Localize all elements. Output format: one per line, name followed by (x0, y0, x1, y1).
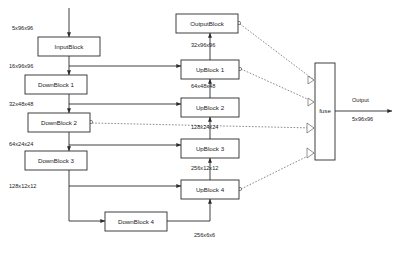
tensor-label-enc-16: 16x96x96 (9, 63, 33, 69)
up-block-2-label: UpBlock 2 (196, 104, 225, 111)
block-down-block-3[interactable]: DownBlock 3 (25, 151, 87, 170)
block-down-block-1[interactable]: DownBlock 1 (25, 75, 87, 94)
output-dim-label: 5x96x96 (352, 116, 373, 122)
tensor-label-bottleneck: 256x6x6 (194, 232, 215, 238)
tensor-label-enc-64: 64x24x24 (9, 141, 33, 147)
up-block-1-label: UpBlock 1 (196, 66, 225, 73)
block-up-block-2[interactable]: UpBlock 2 (181, 98, 239, 117)
fuse-input-arrowheads (307, 76, 314, 158)
block-up-block-1[interactable]: UpBlock 1 (181, 60, 239, 79)
block-down-block-2[interactable]: DownBlock 2 (28, 113, 90, 132)
bottleneck-edges (167, 199, 210, 221)
block-input-block[interactable]: InputBlock (38, 37, 100, 56)
tensor-label-enc-128: 128x12x12 (9, 183, 36, 189)
up-block-3-label: UpBlock 3 (196, 145, 225, 152)
block-fuse[interactable]: fuse (315, 63, 335, 160)
tensor-label-dec-64: 64x48x48 (191, 83, 215, 89)
edge-down3-to-down4 (69, 170, 105, 221)
architecture-diagram-canvas: InputBlock DownBlock 1 DownBlock 2 DownB… (0, 0, 407, 253)
down-block-3-label: DownBlock 3 (38, 157, 75, 164)
block-output-block[interactable]: OutputBlock (176, 14, 238, 33)
dashed-output-to-fuse (240, 24, 314, 80)
down-block-4-label: DownBlock 4 (118, 218, 155, 225)
block-down-block-4[interactable]: DownBlock 4 (105, 212, 167, 231)
fuse-arrowhead-1 (308, 76, 314, 84)
tensor-label-dec-128: 128x24x24 (191, 124, 218, 130)
diagram-svg: InputBlock DownBlock 1 DownBlock 2 DownB… (0, 0, 407, 253)
down-block-1-label: DownBlock 1 (38, 81, 75, 88)
dashed-up1-to-fuse (241, 69, 314, 102)
fuse-arrowhead-2 (308, 98, 314, 106)
block-up-block-3[interactable]: UpBlock 3 (181, 139, 239, 158)
tensor-label-enc-32: 32x48x48 (9, 101, 33, 107)
block-up-block-4[interactable]: UpBlock 4 (181, 180, 239, 199)
down-block-2-label: DownBlock 2 (41, 119, 78, 126)
edge-down4-to-up4 (167, 199, 210, 221)
tensor-label-dec-256: 256x12x12 (191, 165, 218, 171)
fuse-arrowhead-4 (307, 148, 314, 158)
tensor-label-dec-32: 32x96x96 (191, 42, 215, 48)
input-block-label: InputBlock (55, 43, 85, 50)
dashed-up4-to-fuse (241, 153, 314, 189)
output-block-label: OutputBlock (190, 20, 225, 27)
fuse-label: fuse (319, 107, 331, 114)
tensor-label-input: 5x96x96 (12, 25, 33, 31)
output-name-label: Output (352, 97, 369, 103)
up-block-4-label: UpBlock 4 (196, 186, 225, 193)
fuse-arrowhead-3 (307, 123, 314, 133)
